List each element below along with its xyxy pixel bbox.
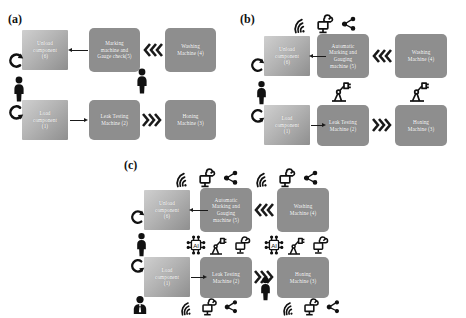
panel-b-arrow-marking-to-unload-head <box>309 54 313 58</box>
panel-c-chevrons-left <box>253 200 275 220</box>
node-line: Load <box>23 110 67 117</box>
panel-a-arrow-marking-to-unload-head <box>68 48 72 52</box>
panel-b-robot-arm-marking-icon <box>328 80 354 104</box>
node-line: machine (5) <box>201 217 251 224</box>
panel-b-node-load: Load component (1) <box>264 105 310 145</box>
panel-c-iot-cluster-leak <box>174 296 250 318</box>
panel-a-node-marking: Marking machine and Gauge check(5) <box>89 28 140 72</box>
panel-b: (b) Unload component (6) Automatic Marki… <box>232 0 466 156</box>
panel-a-chevrons-right <box>141 110 163 130</box>
node-line: (6) <box>265 59 309 66</box>
node-line: Machine (4) <box>166 50 215 57</box>
wifi-icon <box>281 303 294 317</box>
panel-a-curved-arrow-top-icon <box>8 53 24 69</box>
panel-c-arrow-marking-to-unload-head <box>189 208 193 212</box>
node-line: (6) <box>145 213 189 220</box>
cloud-monitor-icon <box>318 15 332 32</box>
ai-chip-icon: AI <box>187 236 204 254</box>
node-line: Washing <box>278 203 328 210</box>
node-line: Washing <box>396 49 446 56</box>
panel-c: (c) Unload component (6) Automatic Marki… <box>112 152 362 314</box>
panel-c-arrow-marking-to-unload-line <box>193 210 208 211</box>
panel-c-iot-cluster-honing <box>276 296 352 318</box>
panel-c-ai-robot-cluster-marking: AI <box>186 234 258 256</box>
cloud-monitor-icon <box>280 169 294 186</box>
robot-arm-icon <box>210 239 226 254</box>
panel-c-curved-arrow-top-icon <box>130 210 145 225</box>
panel-a: (a) Unload component (6) Marking machine… <box>0 0 234 156</box>
node-line: (6) <box>23 53 67 60</box>
panel-a-chevrons-left <box>142 40 164 60</box>
panel-b-node-honing: Honing Machine (3) <box>395 105 447 146</box>
panel-c-node-unload: Unload component (6) <box>144 190 190 230</box>
panel-a-label: (a) <box>8 12 22 27</box>
panel-a-arrow-load-to-leak-line <box>70 120 85 121</box>
panel-b-label: (b) <box>240 12 255 27</box>
cloud-monitor-icon <box>236 237 250 253</box>
node-line: (1) <box>23 123 67 130</box>
panel-a-worker-person-right-icon <box>134 68 150 94</box>
node-line: Machine (3) <box>396 126 446 133</box>
panel-b-curved-arrow-bottom-icon <box>250 108 265 123</box>
node-line: Marking and <box>201 203 251 210</box>
panel-c-node-load: Load component (1) <box>144 257 190 297</box>
node-line: Machine (2) <box>90 120 139 127</box>
node-line: Machine (4) <box>278 210 328 217</box>
node-line: Unload <box>145 200 189 207</box>
node-line: Machine (4) <box>396 56 446 63</box>
ai-chip-icon: AI <box>265 236 282 254</box>
node-line: Honing <box>278 271 328 278</box>
node-line: Unload <box>23 40 67 47</box>
panel-a-arrow-marking-to-unload-line <box>72 50 88 51</box>
network-share-icon <box>343 17 355 30</box>
wifi-icon <box>174 174 188 189</box>
wifi-icon <box>254 174 268 189</box>
node-line: Machine (2) <box>201 278 251 285</box>
network-share-icon <box>225 301 236 313</box>
panel-a-node-leak: Leak Testing Machine (2) <box>89 100 140 140</box>
panel-c-arrow-load-to-leak-head <box>203 275 207 279</box>
panel-b-arrow-marking-to-unload-line <box>313 56 326 57</box>
panel-a-node-honing: Honing Machine (3) <box>165 100 216 140</box>
panel-c-curved-arrow-bottom-icon <box>130 258 145 273</box>
panel-a-curved-arrow-bottom-icon <box>8 104 24 120</box>
node-line: Load <box>265 115 309 122</box>
panel-b-chevrons-right <box>371 115 393 135</box>
panel-c-node-washing: Washing Machine (4) <box>277 188 329 232</box>
panel-b-worker-person-icon <box>254 80 269 105</box>
node-line: Gauge check(5) <box>90 53 139 60</box>
cloud-monitor-icon <box>305 299 318 315</box>
node-line: Machine (3) <box>278 278 328 285</box>
node-line: Gauging <box>201 210 251 217</box>
panel-c-worker-person-right-icon <box>258 276 273 301</box>
svg-text:AI: AI <box>193 243 199 249</box>
cloud-monitor-icon <box>314 237 328 253</box>
panel-c-ai-robot-cluster-washing: AI <box>264 234 336 256</box>
panel-a-node-load: Load component (1) <box>22 100 68 140</box>
network-share-icon <box>225 171 237 184</box>
panel-a-worker-person-left-icon <box>11 76 27 102</box>
wifi-icon <box>179 303 192 317</box>
panel-b-robot-arm-washing-icon <box>406 80 432 104</box>
node-line: Gauging <box>318 56 368 63</box>
wifi-icon <box>292 20 306 35</box>
panel-b-arrow-load-to-leak-head <box>322 123 326 127</box>
panel-a-arrow-load-to-leak-head <box>84 118 88 122</box>
node-line: (1) <box>145 280 189 287</box>
panel-a-node-washing: Washing Machine (4) <box>165 28 216 72</box>
panel-a-node-unload: Unload component (6) <box>22 30 68 70</box>
panel-b-node-unload: Unload component (6) <box>264 36 310 76</box>
node-line: Machine (3) <box>166 120 215 127</box>
node-line: Washing <box>166 43 215 50</box>
node-line: Unload <box>265 46 309 53</box>
node-line: Marking <box>90 40 139 47</box>
node-line: (1) <box>265 128 309 135</box>
panel-b-iot-cluster <box>290 12 366 36</box>
node-line: Honing <box>166 113 215 120</box>
node-line: machine (5) <box>318 63 368 70</box>
panel-c-node-honing: Honing Machine (3) <box>277 257 329 298</box>
panel-c-iot-cluster-washing <box>252 166 328 190</box>
panel-b-curved-arrow-top-icon <box>250 58 265 73</box>
network-share-icon <box>305 171 317 184</box>
panel-c-business-person-icon <box>130 295 150 315</box>
